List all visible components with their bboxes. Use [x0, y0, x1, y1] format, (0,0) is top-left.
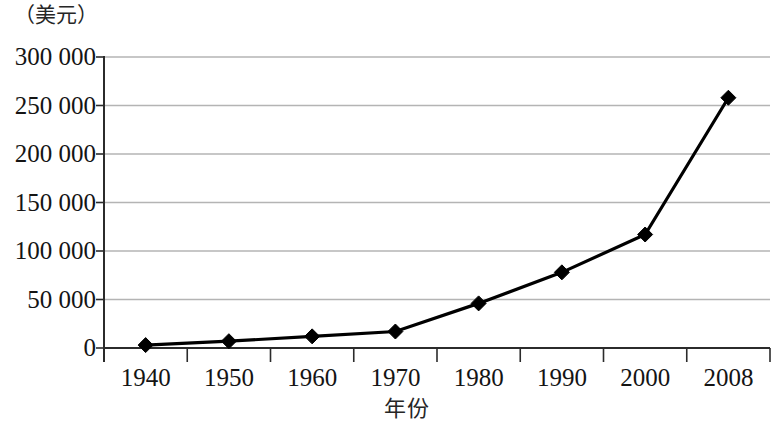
- data-point-marker: [721, 90, 736, 105]
- data-point-marker: [305, 329, 320, 344]
- gridlines: [104, 57, 770, 300]
- data-point-marker: [554, 265, 569, 280]
- series-polyline: [146, 98, 729, 345]
- line-chart: （美元） 050 000100 000150 000200 000250 000…: [0, 0, 776, 427]
- x-axis-ticks: [104, 348, 770, 362]
- y-axis-ticks: [96, 57, 104, 348]
- data-point-marker: [388, 324, 403, 339]
- data-point-marker: [471, 296, 486, 311]
- data-point-marker: [638, 227, 653, 242]
- data-markers: [138, 90, 736, 352]
- data-point-marker: [221, 334, 236, 349]
- data-line: [146, 98, 729, 345]
- data-point-marker: [138, 338, 153, 353]
- plot-area: [0, 0, 776, 427]
